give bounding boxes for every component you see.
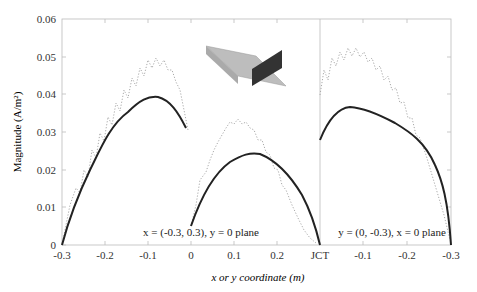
svg-text:0: 0: [188, 249, 194, 261]
x-axis-label: x or y coordinate (m): [210, 271, 304, 284]
svg-text:0.06: 0.06: [37, 13, 57, 25]
svg-text:0.2: 0.2: [270, 249, 284, 261]
y-axis: [62, 57, 451, 245]
svg-text:0.1: 0.1: [227, 249, 241, 261]
svg-text:-0.1: -0.1: [139, 249, 156, 261]
chart: 0 0.01 0.02 0.03 0.04 0.05 0.06 -0.3 -0.…: [0, 0, 477, 292]
x-ticks: [105, 19, 407, 245]
solid-series: [62, 97, 451, 245]
inset-3d-model: [206, 46, 286, 86]
annotation-y-plane: y = (0, -0.3), x = 0 plane: [338, 226, 446, 239]
svg-text:-0.1: -0.1: [354, 249, 371, 261]
svg-text:-0.3: -0.3: [442, 249, 460, 261]
svg-text:-0.3: -0.3: [53, 249, 71, 261]
svg-text:0.05: 0.05: [37, 51, 57, 63]
annotation-x-plane: x = (-0.3, 0.3), y = 0 plane: [143, 226, 259, 239]
svg-text:-0.2: -0.2: [398, 249, 415, 261]
plot-frame: [62, 19, 451, 245]
svg-text:-0.2: -0.2: [96, 249, 113, 261]
svg-text:0.04: 0.04: [37, 88, 57, 100]
svg-text:0.01: 0.01: [37, 201, 56, 213]
svg-text:0.02: 0.02: [37, 164, 56, 176]
y-tick-labels: 0 0.01 0.02 0.03 0.04 0.05 0.06: [37, 13, 57, 251]
x-tick-labels: -0.3 -0.2 -0.1 0 0.1 0.2 JCT -0.1 -0.2 -…: [53, 249, 460, 261]
y-axis-label: Magnitude (A/m²): [11, 91, 24, 172]
svg-text:0.03: 0.03: [37, 126, 57, 138]
svg-text:JCT: JCT: [311, 249, 330, 261]
